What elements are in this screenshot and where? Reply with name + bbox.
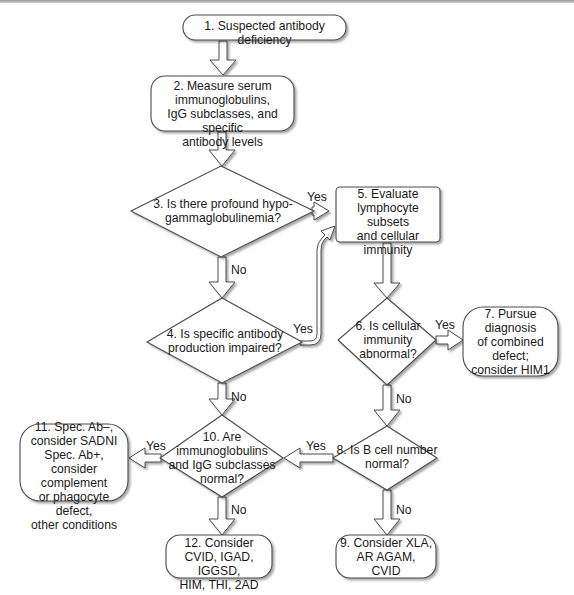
- node-5-text: 5. Evaluate lymphocyte subsets and cellu…: [336, 187, 440, 257]
- node-10-text: 10. Are immunoglobulins and IgG subclass…: [162, 430, 282, 486]
- edge-label-4-no: No: [231, 390, 247, 404]
- edge-label-8-yes: Yes: [306, 439, 326, 453]
- node-1-text: 1. Suspected antibody deficiency: [183, 19, 346, 47]
- node-4-text: 4. Is specific antibody production impai…: [157, 327, 293, 355]
- edge-label-3-no: No: [231, 263, 247, 277]
- edge-label-10-yes: Yes: [146, 439, 166, 453]
- edge-label-8-no: No: [396, 503, 412, 517]
- edge-label-3-yes: Yes: [307, 190, 327, 204]
- node-12-text: 12. Consider CVID, IGAD, IGGSD, HIM, THI…: [166, 536, 272, 592]
- edge-label-6-yes: Yes: [435, 318, 455, 332]
- edge-label-6-no: No: [396, 392, 412, 406]
- edge-label-4-yes: Yes: [293, 322, 313, 336]
- node-8-text: 8. Is B cell number normal?: [335, 443, 439, 471]
- arrow-6-to-7-yes: [436, 330, 463, 350]
- node-9-text: 9. Consider XLA, AR AGAM, CVID: [336, 536, 436, 578]
- node-11-text: 11. Spec. Ab–, consider SADNI Spec. Ab+,…: [20, 420, 128, 532]
- node-3-text: 3. Is there profound hypo- gammaglobulin…: [141, 197, 305, 225]
- node-7-text: 7. Pursue diagnosis of combined defect; …: [463, 307, 558, 377]
- node-2-text: 2. Measure serum immunoglobulins, IgG su…: [151, 79, 294, 149]
- node-6-text: 6. Is cellular immunity abnormal?: [348, 319, 428, 361]
- edge-label-10-no: No: [231, 503, 247, 517]
